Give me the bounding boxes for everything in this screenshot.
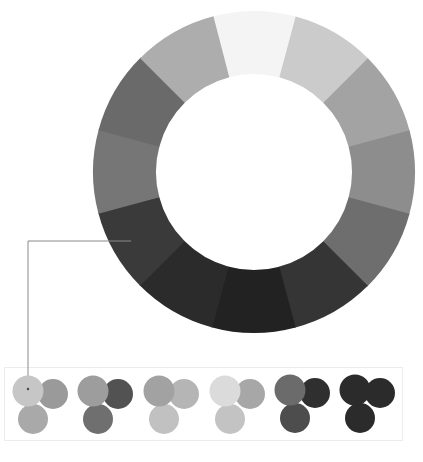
- swatch-panel: [4, 367, 403, 441]
